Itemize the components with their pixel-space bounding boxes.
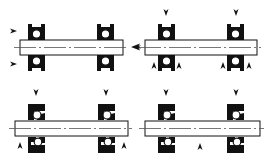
arrow-down-icon: [34, 89, 39, 96]
panel-1: [10, 24, 140, 71]
ball-icon: [163, 111, 171, 119]
arrow-up-icon: [152, 62, 157, 69]
ball-icon: [32, 57, 40, 65]
bearing-bottom: [98, 137, 115, 153]
arrow-up-icon: [221, 62, 226, 69]
bearing-top: [227, 104, 244, 120]
panel-2: [136, 9, 261, 71]
ring-gap: [231, 24, 240, 27]
ball-icon: [231, 30, 239, 38]
bearing-bottom: [158, 55, 175, 71]
arrow-up-icon: [247, 62, 252, 69]
arrow-right-icon: [10, 29, 17, 34]
bearing-bottom: [28, 55, 45, 71]
ball-icon: [231, 57, 239, 65]
panel-3: [9, 89, 132, 153]
ball-icon: [232, 111, 240, 119]
arrow-down-icon: [164, 9, 169, 16]
ring-gap: [162, 24, 171, 27]
ring-gap: [162, 68, 171, 71]
bearing-top: [28, 24, 45, 40]
ball-icon: [162, 57, 170, 65]
panel-4: [139, 89, 264, 153]
bearing-top: [158, 24, 175, 40]
bearing-bottom: [227, 137, 244, 153]
arrow-down-icon: [164, 89, 169, 96]
arrow-down-icon: [104, 89, 109, 96]
bearing-top: [28, 104, 45, 120]
arrow-up-icon: [198, 143, 203, 150]
ball-icon: [164, 138, 172, 146]
arrow-right-icon: [10, 62, 17, 67]
bearing-top: [98, 104, 115, 120]
ring-gap: [101, 68, 110, 71]
ring-gap: [32, 68, 41, 71]
arrow-up-icon: [18, 142, 23, 149]
ball-icon: [34, 138, 42, 146]
bearing-top: [158, 104, 175, 120]
ring-gap: [101, 24, 110, 27]
ball-icon: [162, 30, 170, 38]
bearing-bottom: [97, 55, 114, 71]
bearing-bottom: [158, 137, 175, 153]
arrow-down-icon: [234, 89, 239, 96]
ring-gap: [32, 24, 41, 27]
ball-icon: [104, 138, 112, 146]
arrow-up-icon: [177, 62, 182, 69]
bearing-bottom: [227, 55, 244, 71]
arrow-down-icon: [234, 9, 239, 16]
ball-icon: [233, 138, 241, 146]
bearing-top: [227, 24, 244, 40]
ball-icon: [103, 111, 111, 119]
bearing-bottom: [28, 137, 45, 153]
diagram-svg: [0, 0, 267, 163]
arrow-up-icon: [122, 142, 127, 149]
ball-icon: [101, 57, 109, 65]
ring-gap: [231, 68, 240, 71]
ball-icon: [33, 111, 41, 119]
bearing-arrangement-diagram: [0, 0, 267, 163]
ball-icon: [101, 30, 109, 38]
bearing-top: [97, 24, 114, 40]
ball-icon: [32, 30, 40, 38]
